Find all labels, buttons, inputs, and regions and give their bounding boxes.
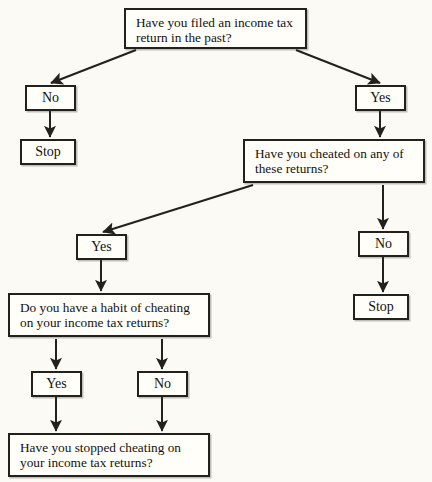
node-label-q-cheated: Have you cheated on any of these returns… xyxy=(255,146,414,177)
node-q-habit: Do you have a habit of cheating on your … xyxy=(8,293,210,337)
node-label-stop-right: Stop xyxy=(355,299,407,315)
node-label-a-filed-yes: Yes xyxy=(357,90,404,106)
node-a-habit-yes: Yes xyxy=(31,371,82,397)
node-label-a-habit-yes: Yes xyxy=(33,376,80,392)
node-label-a-filed-no: No xyxy=(27,90,74,106)
node-a-filed-yes: Yes xyxy=(355,85,406,111)
node-q-filed-return: Have you filed an income tax return in t… xyxy=(124,8,307,49)
flowchart-diagram: Have you filed an income tax return in t… xyxy=(0,0,432,482)
node-label-q-filed-return: Have you filed an income tax return in t… xyxy=(136,15,296,46)
node-a-filed-no: No xyxy=(25,85,76,111)
node-label-q-stopped: Have you stopped cheating on your income… xyxy=(20,440,199,471)
node-q-stopped: Have you stopped cheating on your income… xyxy=(8,433,210,477)
node-a-habit-no: No xyxy=(137,371,188,397)
node-stop-left: Stop xyxy=(20,139,76,165)
node-label-a-cheated-yes: Yes xyxy=(78,239,125,255)
node-label-q-habit: Do you have a habit of cheating on your … xyxy=(20,300,199,331)
node-q-cheated: Have you cheated on any of these returns… xyxy=(243,139,425,183)
node-stop-right: Stop xyxy=(353,294,409,320)
node-label-a-habit-no: No xyxy=(139,376,186,392)
node-label-stop-left: Stop xyxy=(22,144,74,160)
node-a-cheated-no: No xyxy=(358,231,409,257)
node-a-cheated-yes: Yes xyxy=(76,234,127,260)
edge-filed-to-no xyxy=(51,50,136,83)
edge-cheated-to-yes xyxy=(103,185,253,232)
edge-filed-to-yes xyxy=(296,50,380,83)
node-label-a-cheated-no: No xyxy=(360,236,407,252)
